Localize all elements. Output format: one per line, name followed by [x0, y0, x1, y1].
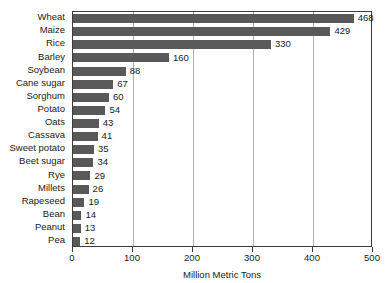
category-label: Cane sugar [0, 77, 65, 89]
category-label: Potato [0, 103, 65, 115]
bar-row[interactable]: 330 [73, 38, 371, 51]
category-label: Cassava [0, 129, 65, 141]
bar-row[interactable]: 160 [73, 51, 371, 64]
bar-value-label: 160 [173, 52, 189, 64]
bar-chart: WheatMaizeRiceBarleySoybeanCane sugarSor… [0, 0, 386, 283]
bar-value-label: 330 [275, 38, 291, 50]
x-tick-label: 100 [124, 252, 140, 263]
bar[interactable] [73, 132, 98, 141]
bar[interactable] [73, 14, 354, 23]
bar-row[interactable]: 26 [73, 182, 371, 195]
bar-value-label: 43 [103, 117, 114, 129]
bar-value-label: 54 [109, 104, 120, 116]
category-label: Maize [0, 24, 65, 36]
bar-row[interactable]: 60 [73, 91, 371, 104]
bar[interactable] [73, 80, 113, 89]
bar-value-label: 35 [98, 143, 109, 155]
bar[interactable] [73, 198, 84, 207]
x-tick-label: 0 [69, 252, 74, 263]
bar-row[interactable]: 29 [73, 169, 371, 182]
x-tick-label: 500 [364, 252, 380, 263]
bar-value-label: 26 [93, 183, 104, 195]
category-label: Wheat [0, 11, 65, 23]
bars-layer: 4684293301608867605443413534292619141312 [73, 12, 371, 246]
x-tick-label: 400 [304, 252, 320, 263]
bar-row[interactable]: 67 [73, 78, 371, 91]
category-label: Peanut [0, 221, 65, 233]
bar[interactable] [73, 67, 126, 76]
bar[interactable] [73, 119, 99, 128]
bar[interactable] [73, 171, 90, 180]
bar[interactable] [73, 211, 81, 220]
category-label: Millets [0, 182, 65, 194]
bar-row[interactable]: 13 [73, 222, 371, 235]
category-label: Sorghum [0, 90, 65, 102]
category-label: Beet sugar [0, 155, 65, 167]
bar-value-label: 429 [334, 25, 350, 37]
bar-row[interactable]: 88 [73, 64, 371, 77]
bar[interactable] [73, 158, 93, 167]
chart-title [72, 0, 372, 3]
bar-value-label: 19 [88, 196, 99, 208]
bar[interactable] [73, 185, 89, 194]
y-axis-category-labels: WheatMaizeRiceBarleySoybeanCane sugarSor… [0, 11, 69, 247]
category-label: Rapeseed [0, 195, 65, 207]
bar-row[interactable]: 35 [73, 143, 371, 156]
category-label: Bean [0, 208, 65, 220]
category-label: Soybean [0, 64, 65, 76]
bar-row[interactable]: 468 [73, 12, 371, 25]
bar-value-label: 12 [84, 235, 95, 247]
category-label: Rice [0, 37, 65, 49]
x-axis-ticks: 0100200300400500 [72, 247, 372, 253]
bar[interactable] [73, 237, 80, 246]
bar-row[interactable]: 43 [73, 117, 371, 130]
bar-value-label: 13 [85, 222, 96, 234]
bar[interactable] [73, 106, 105, 115]
bar[interactable] [73, 93, 109, 102]
bar-value-label: 34 [97, 156, 108, 168]
bar[interactable] [73, 27, 330, 36]
bar-value-label: 14 [85, 209, 96, 221]
bar-value-label: 67 [117, 78, 128, 90]
x-axis-title: Million Metric Tons [72, 269, 372, 280]
bar-row[interactable]: 41 [73, 130, 371, 143]
bar-row[interactable]: 19 [73, 196, 371, 209]
category-label: Barley [0, 51, 65, 63]
bar-row[interactable]: 34 [73, 156, 371, 169]
bar[interactable] [73, 145, 94, 154]
category-label: Oats [0, 116, 65, 128]
bar[interactable] [73, 224, 81, 233]
bar[interactable] [73, 40, 271, 49]
bar[interactable] [73, 53, 169, 62]
bar-value-label: 60 [113, 91, 124, 103]
x-tick-label: 200 [184, 252, 200, 263]
category-label: Pea [0, 234, 65, 246]
category-label: Rye [0, 169, 65, 181]
category-label: Sweet potato [0, 142, 65, 154]
bar-value-label: 41 [102, 130, 113, 142]
plot-area: 4684293301608867605443413534292619141312 [72, 11, 372, 247]
bar-value-label: 29 [94, 170, 105, 182]
bar-row[interactable]: 54 [73, 104, 371, 117]
bar-value-label: 88 [130, 65, 141, 77]
bar-row[interactable]: 429 [73, 25, 371, 38]
bar-value-label: 468 [358, 12, 374, 24]
bar-row[interactable]: 14 [73, 209, 371, 222]
x-tick-label: 300 [244, 252, 260, 263]
